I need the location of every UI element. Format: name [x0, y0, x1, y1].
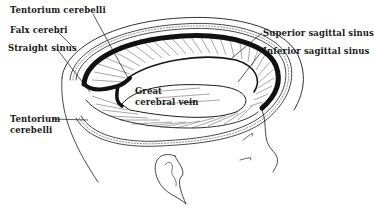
label-great-cerebral-vein-line2: cerebral vein [135, 97, 199, 107]
label-straight-sinus: Straight sinus [8, 43, 77, 53]
label-tentorium-cerebelli-bottom-line1: Tentorium [10, 114, 60, 124]
label-tentorium-cerebelli-bottom-line2: cerebelli [10, 125, 52, 135]
label-great-cerebral-vein-line1: Great [135, 86, 162, 96]
label-superior-sagittal-sinus: Superior sagittal sinus [263, 28, 374, 38]
label-falx-cerebri: Falx cerebri [10, 25, 68, 35]
label-tentorium-cerebelli-top: Tentorium cerebelli [10, 5, 106, 15]
label-inferior-sagittal-sinus: Inferior sagittal sinus [263, 46, 370, 56]
